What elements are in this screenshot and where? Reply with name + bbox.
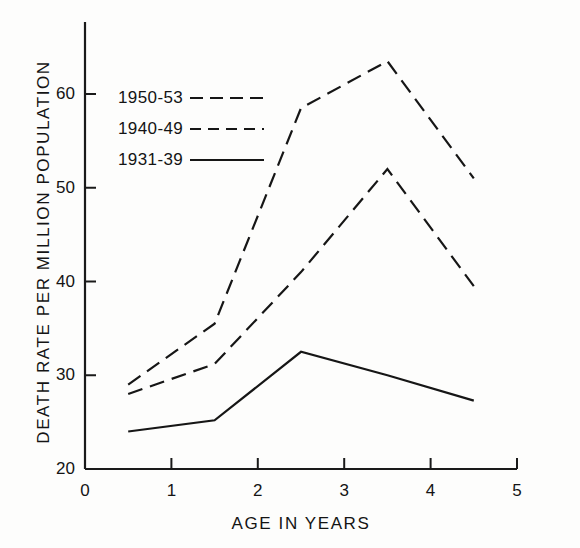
y-tick-label: 50	[41, 178, 75, 198]
y-tick-label: 60	[41, 84, 75, 104]
x-axis-ticks	[171, 458, 517, 469]
x-tick-label: 0	[73, 481, 97, 501]
data-series-group	[128, 61, 474, 431]
chart-figure: DEATH RATE PER MILLION POPULATION AGE IN…	[0, 0, 580, 548]
x-tick-label: 2	[246, 481, 270, 501]
x-tick-label: 4	[419, 481, 443, 501]
x-tick-label: 1	[159, 481, 183, 501]
x-tick-label: 3	[332, 481, 356, 501]
y-axis-ticks	[85, 94, 96, 375]
plot-area	[0, 0, 580, 548]
y-tick-label: 20	[41, 459, 75, 479]
series-line-1940-49	[128, 169, 474, 394]
series-line-1950-53	[128, 61, 474, 384]
y-tick-label: 30	[41, 365, 75, 385]
x-tick-label: 5	[505, 481, 529, 501]
series-line-1931-39	[128, 352, 474, 432]
axis-lines	[85, 22, 517, 469]
y-tick-label: 40	[41, 272, 75, 292]
